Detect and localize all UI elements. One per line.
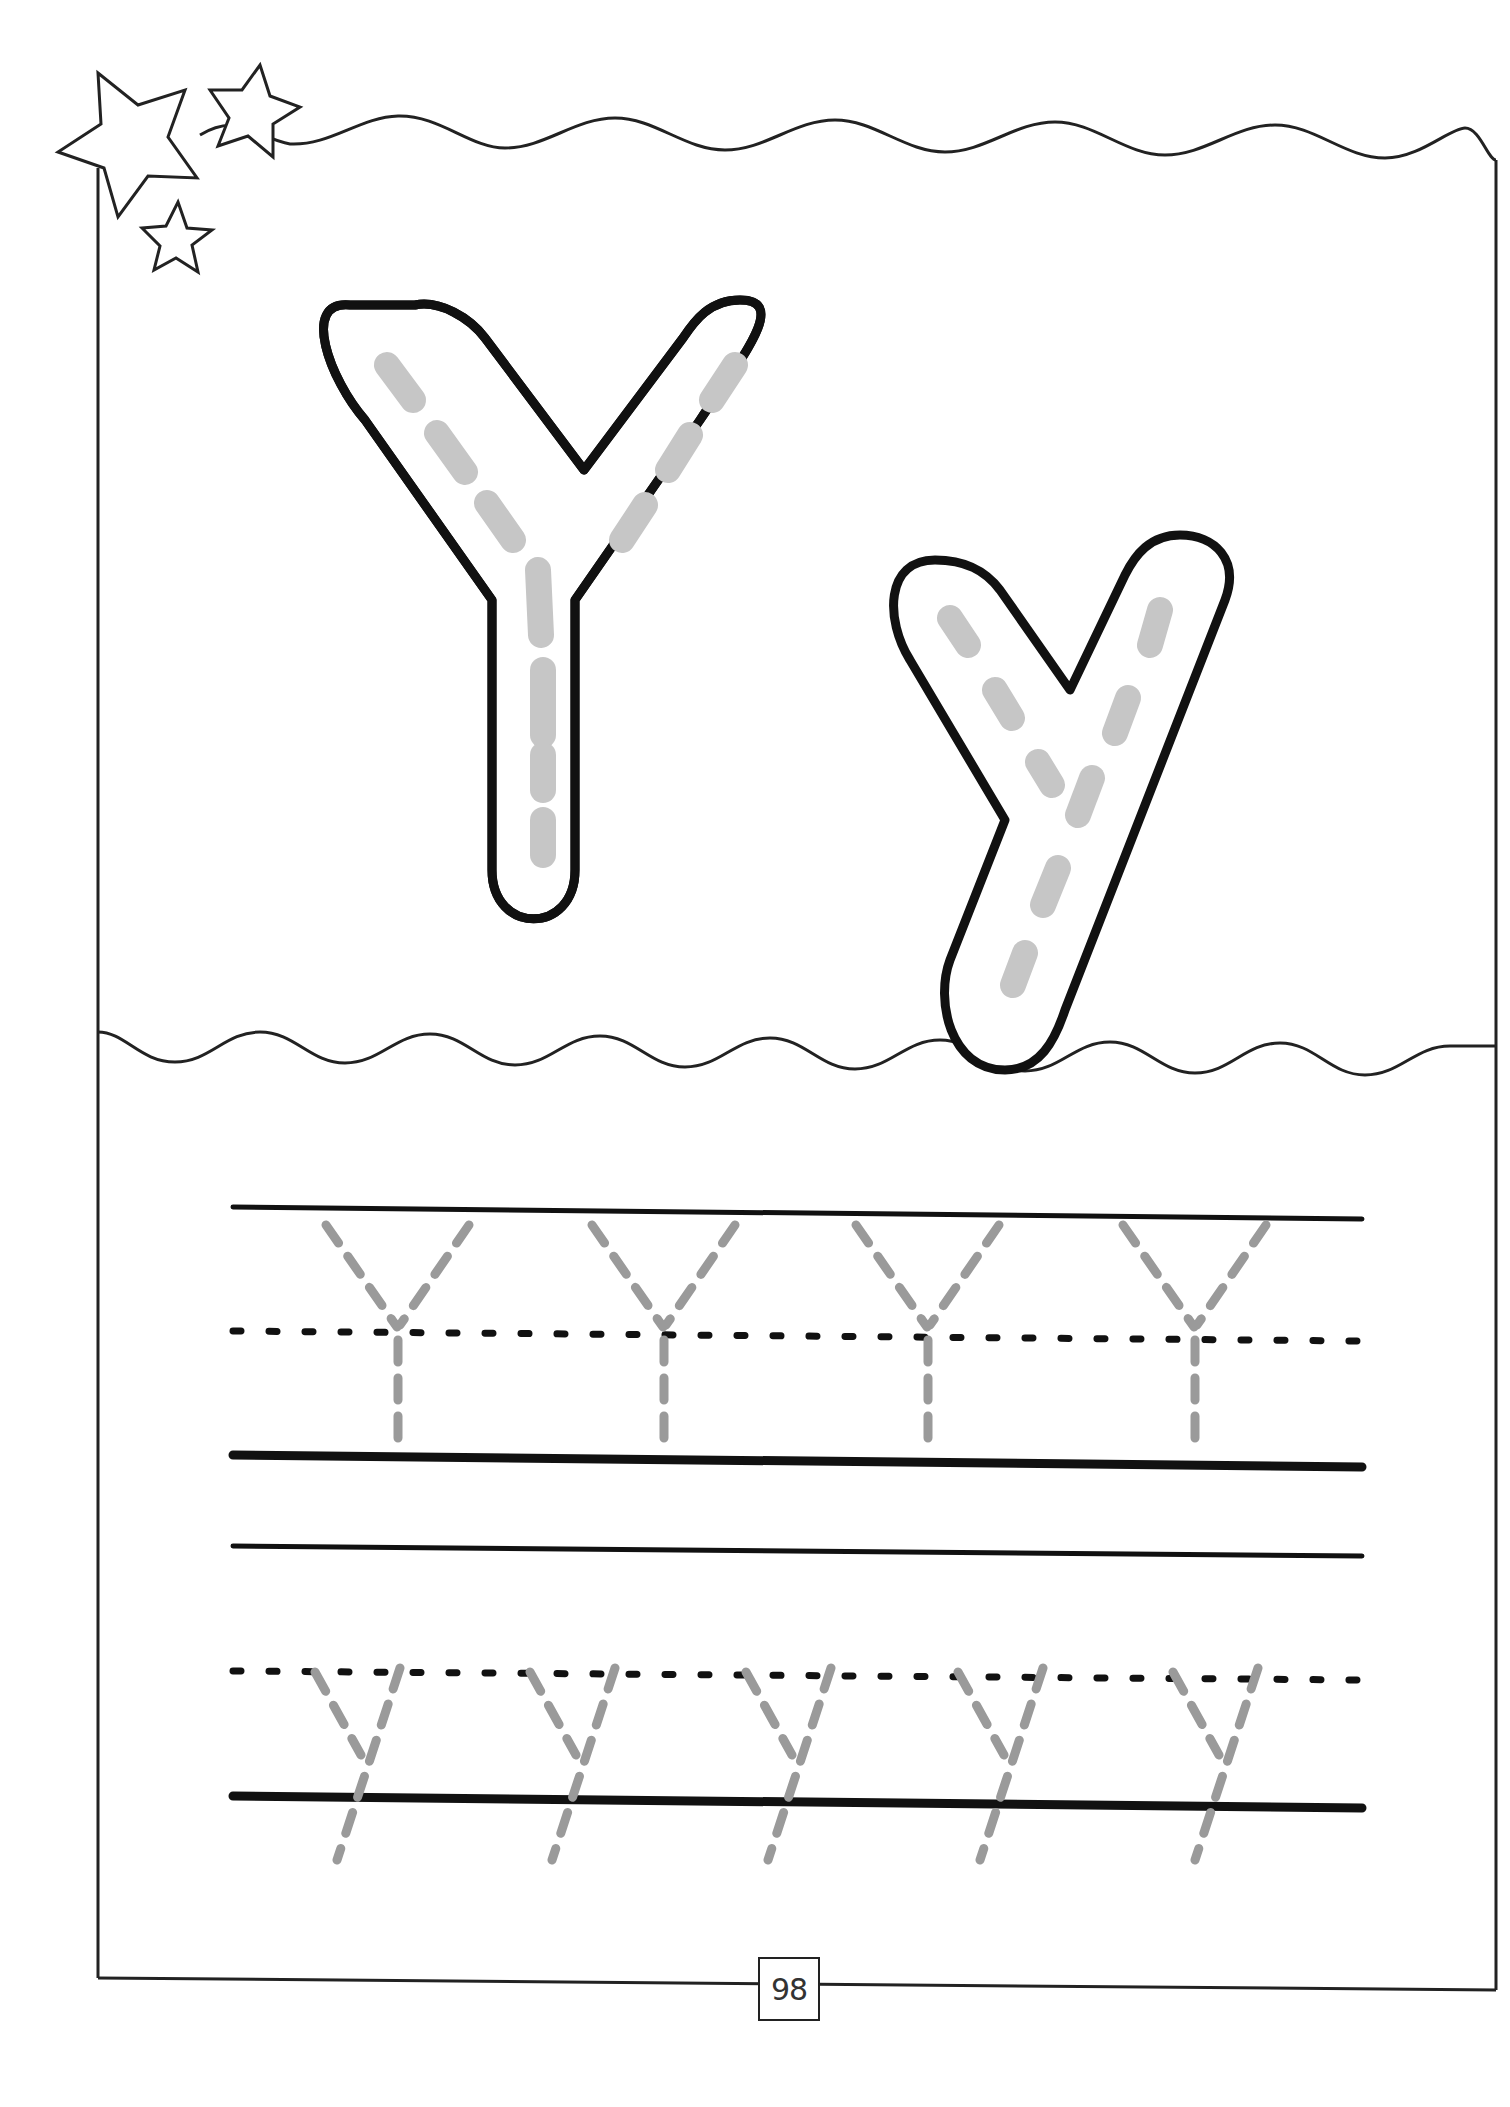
row1-base-line	[233, 1455, 1362, 1467]
top-wave-border	[200, 116, 1496, 160]
middle-wave-divider	[98, 1032, 1496, 1075]
trace-y-5	[1173, 1668, 1258, 1860]
trace-y-4	[958, 1668, 1043, 1860]
row2-top-line	[233, 1546, 1362, 1556]
worksheet-page: .frame { fill: none; stroke: #222; strok…	[0, 0, 1510, 2107]
page-number: 98	[758, 1957, 820, 2021]
large-star-icon	[58, 73, 197, 217]
trace-y-1	[315, 1668, 400, 1860]
tracing-row-uppercase	[233, 1207, 1362, 1467]
uppercase-letter-y-outline	[324, 300, 761, 919]
trace-Y-3	[856, 1225, 999, 1443]
row2-base-line	[233, 1796, 1362, 1808]
trace-Y-4	[1123, 1225, 1266, 1443]
row1-top-line	[233, 1207, 1362, 1219]
stars-decoration	[58, 65, 300, 272]
page-number-text: 98	[771, 1972, 807, 2007]
trace-y-3	[746, 1668, 831, 1860]
tracing-row-lowercase	[233, 1546, 1362, 1860]
worksheet-artwork: .frame { fill: none; stroke: #222; strok…	[0, 0, 1510, 2107]
lowercase-letter-y-outline	[894, 535, 1230, 1070]
page-frame	[98, 160, 1496, 1990]
small-star-icon	[142, 202, 212, 272]
trace-y-2	[530, 1668, 615, 1860]
